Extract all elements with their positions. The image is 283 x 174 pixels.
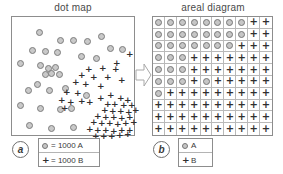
plus-icon: + (226, 65, 234, 75)
circle-icon (191, 31, 198, 38)
dot-symbol-b: + (94, 113, 101, 120)
dot-symbol-a (45, 65, 52, 72)
plus-icon: + (214, 124, 222, 134)
plus-icon: + (262, 100, 270, 110)
dot-symbol-b: + (86, 126, 93, 133)
areal-cell: + (260, 17, 272, 29)
dot-symbol-b: + (78, 72, 85, 79)
plus-icon: + (202, 124, 210, 134)
areal-diagram-grid: ++++++++++++++++++++++++++++++++++++++++… (153, 17, 272, 135)
areal-cell: + (212, 123, 224, 135)
dot-symbol-b: + (108, 133, 115, 140)
plus-icon: + (238, 53, 246, 63)
areal-cell (201, 29, 213, 41)
circle-icon (226, 42, 233, 49)
areal-cell: + (212, 88, 224, 100)
plus-icon: + (214, 76, 222, 86)
areal-cell (165, 17, 177, 29)
areal-cell (212, 17, 224, 29)
areal-cell: + (260, 100, 272, 112)
dot-symbol-b: + (118, 127, 125, 134)
areal-cell: + (236, 52, 248, 64)
legend-row-a-1: = 1000 A (39, 139, 99, 153)
panel-b-title: areal diagram (150, 2, 276, 13)
plus-icon: + (226, 112, 234, 122)
areal-cell: + (212, 52, 224, 64)
areal-cell (177, 29, 189, 41)
areal-cell: + (177, 123, 189, 135)
circle-icon (167, 19, 174, 26)
plus-icon: + (214, 53, 222, 63)
areal-cell (224, 17, 236, 29)
circle-icon (238, 19, 245, 26)
areal-cell: + (165, 100, 177, 112)
areal-cell (153, 29, 165, 41)
dot-symbol-a (26, 122, 33, 129)
panel-a-tag: a (12, 141, 29, 158)
areal-cell: + (177, 111, 189, 123)
areal-cell (177, 64, 189, 76)
areal-cell (212, 41, 224, 53)
dot-symbol-a (46, 87, 53, 94)
plus-icon: + (238, 100, 246, 110)
areal-cell: + (177, 88, 189, 100)
areal-cell: + (189, 123, 201, 135)
plus-icon: + (202, 112, 210, 122)
dot-symbol-b: + (100, 133, 107, 140)
areal-cell: + (236, 100, 248, 112)
legend-row-b-1: A (179, 139, 212, 153)
areal-cell: + (260, 123, 272, 135)
plus-icon: + (249, 124, 257, 134)
legend-row-a-2: + = 1000 B (39, 153, 99, 167)
areal-cell: + (212, 76, 224, 88)
circle-icon (238, 31, 245, 38)
legend-label-a-1: = 1000 A (51, 141, 83, 150)
areal-cell: + (224, 88, 236, 100)
areal-cell: + (260, 29, 272, 41)
dot-symbol-a (42, 48, 49, 55)
plus-icon: + (190, 100, 198, 110)
dot-symbol-b: + (125, 109, 132, 116)
dot-symbol-b: + (126, 114, 133, 121)
plus-icon: + (154, 124, 162, 134)
plus-icon: + (238, 41, 246, 51)
areal-cell: + (236, 123, 248, 135)
areal-cell: + (236, 88, 248, 100)
dot-symbol-b: + (102, 127, 109, 134)
dot-symbol-b: + (107, 92, 114, 99)
dot-symbol-b: + (98, 120, 105, 127)
plus-icon: + (249, 100, 257, 110)
dot-symbol-a (17, 60, 24, 67)
areal-cell: + (153, 123, 165, 135)
dot-symbol-b: + (101, 107, 108, 114)
areal-cell: + (153, 111, 165, 123)
plus-icon: + (238, 65, 246, 75)
dot-symbol-b: + (117, 95, 124, 102)
dot-symbol-b: + (124, 131, 131, 138)
dot-symbol-b: + (126, 127, 133, 134)
areal-cell: + (201, 88, 213, 100)
plus-icon: + (238, 124, 246, 134)
areal-cell (224, 41, 236, 53)
circle-icon (155, 19, 162, 26)
areal-cell: + (248, 123, 260, 135)
areal-cell (153, 88, 165, 100)
areal-cell: + (189, 76, 201, 88)
circle-icon (226, 19, 233, 26)
circle-icon (167, 78, 174, 85)
dot-symbol-b: + (67, 99, 74, 106)
areal-cell (165, 41, 177, 53)
dot-symbol-a (54, 49, 61, 56)
plus-icon: + (249, 65, 257, 75)
circle-icon (155, 90, 162, 97)
plus-icon: + (190, 53, 198, 63)
plus-icon: + (202, 53, 210, 63)
areal-cell (189, 41, 201, 53)
plus-icon: + (262, 124, 270, 134)
areal-cell: + (260, 52, 272, 64)
dot-symbol-a (70, 124, 77, 131)
areal-cell: + (189, 64, 201, 76)
dot-symbol-b: + (114, 121, 121, 128)
areal-cell (165, 52, 177, 64)
circle-icon (179, 54, 186, 61)
